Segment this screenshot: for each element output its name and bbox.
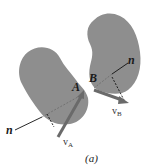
diagram-canvas: A B n n vA vB (a) bbox=[0, 0, 150, 165]
velocity-b-label: vB bbox=[112, 105, 122, 118]
point-a-label: A bbox=[71, 80, 80, 94]
velocity-arrowhead-b bbox=[118, 96, 129, 104]
normal-a-label: n bbox=[6, 123, 13, 137]
normal-b-label: n bbox=[128, 53, 135, 67]
point-b-label: B bbox=[88, 71, 97, 85]
normal-line-a-outside bbox=[15, 117, 42, 130]
collision-diagram: A B n n vA vB (a) bbox=[0, 0, 150, 165]
velocity-a-label: vA bbox=[63, 136, 73, 149]
figure-caption: (a) bbox=[85, 152, 98, 165]
